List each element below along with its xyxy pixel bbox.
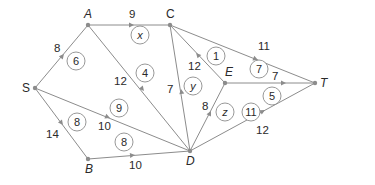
edge-C-T [170, 25, 315, 83]
svg-text:z: z [221, 106, 228, 118]
capacity-B-D: 10 [129, 159, 142, 171]
svg-text:9: 9 [116, 102, 122, 114]
flow-network-diagram: S A C E T B D 8 9 12 10 14 10 7 12 11 7 … [0, 0, 375, 185]
arrow-A-C-icon [129, 23, 134, 28]
svg-text:5: 5 [269, 90, 275, 102]
node-label-S: S [22, 81, 30, 95]
node-label-E: E [225, 65, 234, 79]
arrow-E-T-icon [281, 81, 286, 86]
flow-E-C: 1 [207, 47, 225, 65]
capacity-labels: 8 9 12 10 14 10 7 12 11 7 8 12 [46, 8, 278, 171]
capacity-D-E: 8 [202, 100, 208, 112]
capacity-C-T: 11 [258, 40, 270, 52]
capacity-S-B: 14 [46, 128, 59, 140]
node-label-D: D [186, 154, 195, 168]
node-C [168, 23, 172, 27]
node-label-A: A [83, 7, 92, 21]
capacity-D-C: 7 [167, 83, 173, 95]
flow-D-T: 11 [242, 103, 260, 121]
arrow-D-C-icon [179, 89, 185, 95]
svg-text:1: 1 [213, 50, 219, 62]
svg-text:8: 8 [121, 136, 127, 148]
flow-D-E: z [216, 103, 234, 121]
flow-S-D: 9 [110, 99, 128, 117]
flow-D-C: y [184, 77, 202, 95]
node-A [86, 23, 90, 27]
edge-B-D [88, 151, 190, 159]
flow-E-T: 5 [263, 87, 281, 105]
svg-text:8: 8 [74, 116, 80, 128]
flow-B-D: 8 [115, 133, 133, 151]
node-label-B: B [85, 162, 93, 176]
capacity-A-C: 9 [129, 8, 135, 20]
capacity-E-T: 7 [272, 70, 278, 82]
flow-A-C: x [131, 26, 149, 44]
node-B [86, 157, 90, 161]
node-T [313, 81, 317, 85]
node-S [33, 86, 37, 90]
flow-A-D: 4 [136, 64, 154, 82]
capacity-A-D: 12 [114, 75, 127, 87]
svg-text:x: x [136, 29, 143, 41]
svg-text:7: 7 [256, 63, 262, 75]
flow-S-B: 8 [68, 113, 86, 131]
flow-C-T: 7 [250, 60, 268, 78]
svg-text:4: 4 [142, 67, 148, 79]
arrow-B-D-icon [130, 153, 135, 158]
svg-text:6: 6 [73, 55, 79, 67]
svg-text:11: 11 [245, 106, 256, 118]
node-label-T: T [320, 76, 329, 90]
flow-labels: 6 x 4 9 8 8 y 1 [67, 26, 281, 151]
node-D [188, 149, 192, 153]
capacity-S-D: 10 [98, 120, 111, 132]
node-labels: S A C E T B D [22, 7, 329, 176]
flow-S-A: 6 [67, 52, 85, 70]
capacity-D-T: 12 [256, 124, 269, 136]
arrow-D-T-icon [259, 108, 266, 115]
node-E [223, 81, 227, 85]
capacity-E-C: 12 [188, 60, 201, 72]
capacity-S-A: 8 [54, 42, 60, 54]
node-label-C: C [166, 7, 175, 21]
